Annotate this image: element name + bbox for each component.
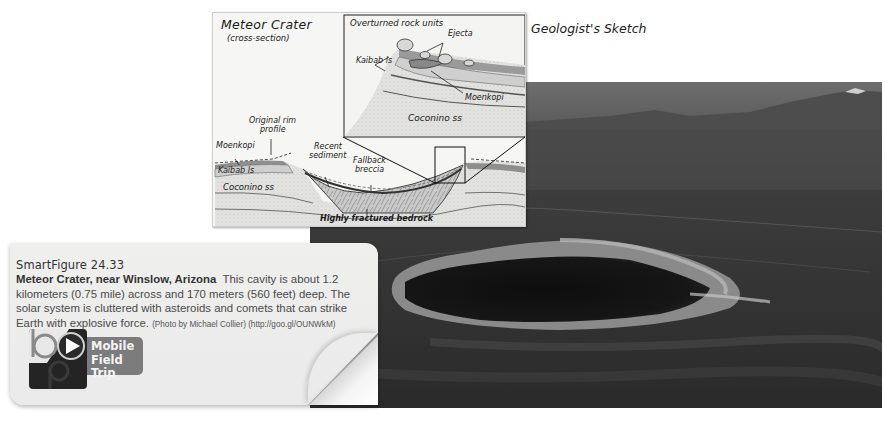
caption-card: SmartFigure 24.33 Meteor Crater, near Wi… [10,243,378,405]
label-recent: Recent [314,143,342,151]
label-moenkopi: Moenkopi [216,142,255,150]
inset-label-ejecta: Ejecta [448,30,473,38]
mft-line2: Field Trip [91,354,143,381]
bp-logo-icon[interactable] [29,329,87,389]
inset-label-moenkopi: Moenkopi [465,94,504,102]
label-coconino: Coconino ss [223,183,274,192]
sketch-title: Meteor Crater [221,19,312,32]
sketch-heading: Geologist's Sketch [531,21,646,36]
inset-label-kaibab: Kaibab ls [356,57,392,65]
label-fallback-2: breccia [355,166,384,174]
mobile-field-trip-label[interactable]: Mobile Field Trip [81,337,143,375]
play-icon [29,329,87,389]
figure-number: SmartFigure 24.33 [16,258,124,272]
label-original-rim-2: profile [260,126,286,134]
page-curl-icon [308,333,378,405]
label-kaibab: Kaibab ls [218,167,254,175]
label-original-rim: Original rim [249,117,296,125]
label-fallback: Fallback [353,157,386,165]
inset-label-coconino: Coconino ss [408,114,462,123]
caption-title: Meteor Crater, near Winslow, Arizona [16,273,216,285]
geologists-sketch: Meteor Crater (cross-section) Overturned… [212,12,526,227]
photo-credit: (Photo by Michael Collier) (http://goo.g… [152,320,335,329]
inset-title: Overturned rock units [350,19,443,28]
sketch-subtitle: (cross-section) [227,34,290,43]
label-recent-2: sediment [309,152,346,160]
figure-caption: Meteor Crater, near Winslow, Arizona Thi… [16,272,372,332]
mft-line1: Mobile [91,340,143,354]
label-bedrock: Highly fractured bedrock [320,215,433,223]
